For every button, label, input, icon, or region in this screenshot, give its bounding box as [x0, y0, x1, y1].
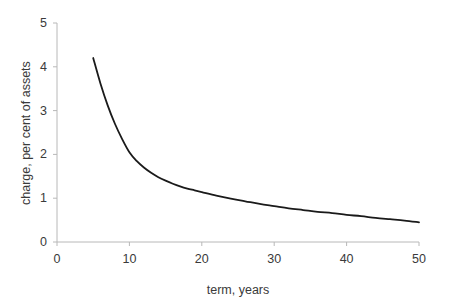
x-axis-tick-marks	[57, 242, 419, 246]
chart-container: 01234501020304050 charge, per cent of as…	[0, 0, 450, 307]
axis-lines	[57, 23, 419, 242]
x-axis-tick-label: 10	[112, 253, 146, 266]
data-line-0	[93, 58, 419, 222]
x-axis-tick-label: 30	[257, 253, 291, 266]
x-axis-tick-label: 40	[330, 253, 364, 266]
y-axis-title: charge, per cent of assets	[20, 61, 33, 205]
x-axis-tick-label: 50	[402, 253, 436, 266]
x-axis-title: term, years	[13, 284, 450, 297]
y-axis-tick-label: 0	[21, 236, 47, 249]
y-axis-tick-marks	[53, 23, 57, 242]
data-series-group	[93, 58, 419, 222]
y-axis-tick-label: 5	[21, 17, 47, 30]
x-axis-tick-label: 20	[185, 253, 219, 266]
x-axis-tick-label: 0	[40, 253, 74, 266]
